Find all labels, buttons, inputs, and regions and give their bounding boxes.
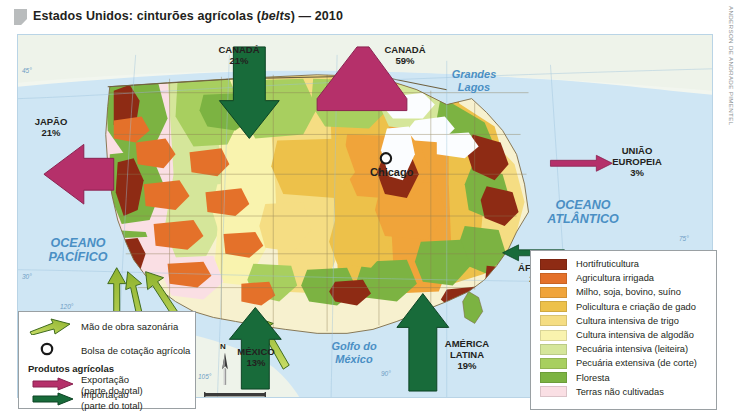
legend-class-label: Policultura e criação de gado xyxy=(576,302,696,312)
legend-class-swatch xyxy=(540,344,567,355)
legend-class-row: Terras não cultivadas xyxy=(531,385,716,399)
al-pct: 19% xyxy=(457,360,476,371)
image-credit: ANDERSON DE ANDRADE PIMENTEL xyxy=(724,6,738,176)
legend-class-label: Floresta xyxy=(576,373,610,383)
legend-class-label: Hortifruticultura xyxy=(576,259,639,269)
golfo-line1: Golfo do xyxy=(331,340,376,352)
label-japao: JAPÃO 21% xyxy=(20,116,82,138)
legend-import-arrow-icon xyxy=(32,392,74,406)
title-italic-belts: belts xyxy=(261,9,291,23)
legend-products-heading: Produtos agrícolas xyxy=(28,363,114,374)
canada-export-country: CANADÁ xyxy=(384,44,425,55)
legend-class-row: Hortifruticultura xyxy=(531,257,716,271)
scale-bar-graphic xyxy=(204,392,268,398)
legend-class-label: Terras não cultivadas xyxy=(576,387,664,397)
al-country-line1: AMÉRICA xyxy=(445,338,489,349)
title-part-2: ) — 2010 xyxy=(291,9,343,23)
bookmark-icon xyxy=(14,9,27,25)
label-oceano-pacifico: OCEANO PACÍFICO xyxy=(32,236,124,264)
ue-country-line1: UNIÃO xyxy=(622,145,653,156)
legend-class-row: Pecuária intensiva (leiteira) xyxy=(531,342,716,356)
mexico-country: MÉXICO xyxy=(237,346,274,357)
golfo-line2: México xyxy=(335,353,372,365)
legend-class-row: Pecuária extensiva (de corte) xyxy=(531,356,716,370)
legend-class-row: Agricultura irrigada xyxy=(531,271,716,285)
label-canada-export: CANADÁ 59% xyxy=(370,44,440,66)
japao-country: JAPÃO xyxy=(35,116,68,127)
legend-class-label: Agricultura irrigada xyxy=(576,273,654,283)
legend-class-row: Cultura intensiva de trigo xyxy=(531,314,716,328)
canada-import-country: CANADÁ xyxy=(218,44,259,55)
legend-class-swatch xyxy=(540,273,567,284)
legend-class-swatch xyxy=(540,315,567,326)
coord-lon-105: 105° xyxy=(198,373,211,380)
label-golfo-do-mexico: Golfo do México xyxy=(314,340,394,366)
canada-export-pct: 59% xyxy=(395,55,414,66)
legend-labour-arrow-icon xyxy=(29,318,71,335)
grandes-lagos-line2: Lagos xyxy=(458,81,490,93)
mexico-pct: 13% xyxy=(246,357,265,368)
label-chicago: Chicago xyxy=(370,166,413,178)
legend-class-row: Policultura e criação de gado xyxy=(531,300,716,314)
legend-class-swatch xyxy=(540,386,567,397)
legend-landuse-classes: HortifruticulturaAgricultura irrigadaMil… xyxy=(530,250,717,410)
legend-class-swatch xyxy=(540,372,567,383)
legend-labour-label: Mão de obra sazonária xyxy=(81,321,178,332)
legend-class-label: Pecuária intensiva (leiteira) xyxy=(576,344,688,354)
map-figure: Estados Unidos: cinturões agrícolas (bel… xyxy=(0,0,739,418)
legend-class-label: Cultura intensiva de trigo xyxy=(576,316,679,326)
ue-pct: 3% xyxy=(630,167,644,178)
legend-class-row: Floresta xyxy=(531,371,716,385)
oceano-atlantico-line1: OCEANO xyxy=(556,198,611,212)
legend-class-row: Milho, soja, bovino, suíno xyxy=(531,285,716,299)
legend-class-label: Pecuária extensiva (de corte) xyxy=(576,358,697,368)
label-america-latina: AMÉRICA LATINA 19% xyxy=(430,338,504,371)
legend-class-label: Milho, soja, bovino, suíno xyxy=(576,287,681,297)
title-part-1: Estados Unidos: cinturões agrícolas ( xyxy=(33,9,261,23)
label-uniao-europeia: UNIÃO EUROPEIA 3% xyxy=(596,145,678,178)
oceano-pacifico-line1: OCEANO xyxy=(51,236,106,250)
coord-lat-45: 45° xyxy=(22,67,32,74)
legend-import-line2: (parte do total) xyxy=(81,400,143,411)
legend-class-row: Cultura intensiva de algodão xyxy=(531,328,716,342)
legend-export-arrow-icon xyxy=(32,377,74,391)
coord-lat-30: 30° xyxy=(22,273,32,280)
canada-import-pct: 21% xyxy=(229,55,248,66)
label-canada-import: CANADÁ 21% xyxy=(204,44,274,66)
legend-class-swatch xyxy=(540,301,567,312)
al-country-line2: LATINA xyxy=(450,349,484,360)
compass-needle-icon xyxy=(214,351,236,394)
oceano-pacifico-line2: PACÍFICO xyxy=(49,250,108,264)
coord-lon-120: 120° xyxy=(60,303,73,310)
coord-lat-75: 75° xyxy=(679,235,689,242)
label-grandes-lagos: Grandes Lagos xyxy=(432,68,516,94)
legend-class-swatch xyxy=(540,330,567,341)
legend-bolsa-label: Bolsa de cotação agrícola xyxy=(81,345,190,356)
oceano-atlantico-line2: ATLÂNTICO xyxy=(547,212,618,226)
figure-title-bar: Estados Unidos: cinturões agrícolas (bel… xyxy=(0,0,739,34)
legend-class-swatch xyxy=(540,358,567,369)
legend-import-label: Importação (parte do total) xyxy=(81,390,143,411)
compass-rose: N xyxy=(214,342,236,394)
legend-symbols: Mão de obra sazonária Bolsa de cotação a… xyxy=(18,311,196,409)
legend-import-line1: Importação xyxy=(81,389,129,400)
grandes-lagos-line1: Grandes xyxy=(452,68,497,80)
label-oceano-atlantico: OCEANO ATLÂNTICO xyxy=(528,198,638,226)
legend-export-line1: Exportação xyxy=(81,374,129,385)
image-credit-text: ANDERSON DE ANDRADE PIMENTEL xyxy=(728,6,735,125)
legend-bolsa-icon xyxy=(39,341,55,357)
coord-lon-90: 90° xyxy=(381,370,391,377)
ue-country-line2: EUROPEIA xyxy=(612,156,662,167)
compass-north-label: N xyxy=(220,342,226,351)
page-title: Estados Unidos: cinturões agrícolas (bel… xyxy=(33,9,343,23)
bolsa-marker-icon xyxy=(381,153,391,163)
legend-class-label: Cultura intensiva de algodão xyxy=(576,330,694,340)
legend-class-swatch xyxy=(540,259,567,270)
legend-class-swatch xyxy=(540,287,567,298)
japao-pct: 21% xyxy=(41,127,60,138)
